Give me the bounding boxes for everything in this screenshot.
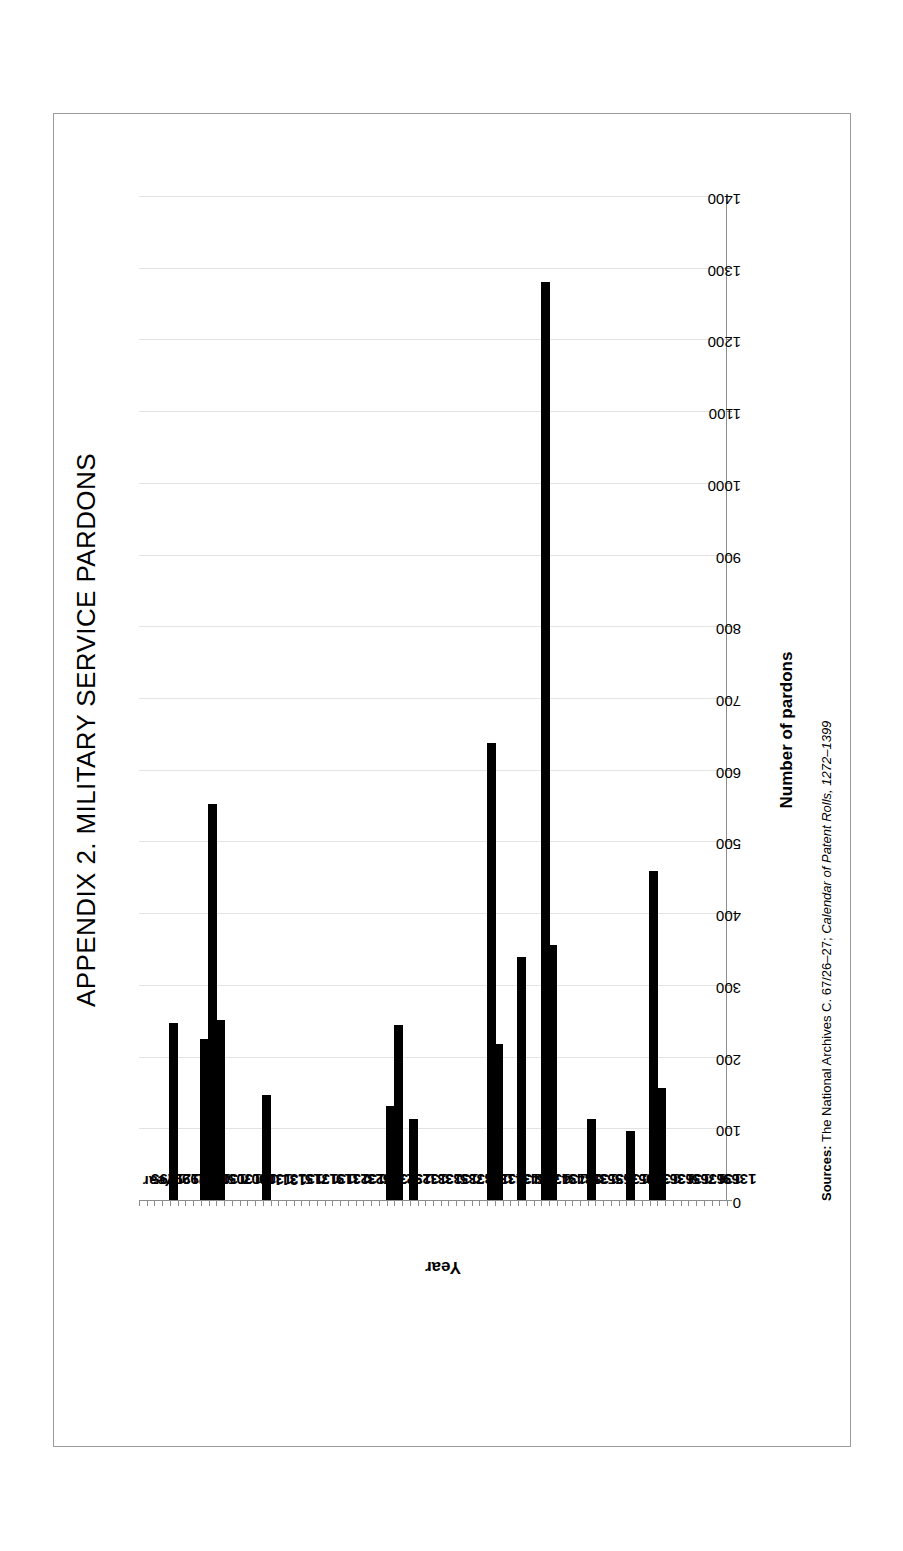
- category-tick: [479, 1201, 480, 1206]
- category-tick: [703, 1201, 704, 1206]
- category-tick: [564, 1201, 565, 1206]
- category-tick: [610, 1201, 611, 1206]
- value-tick-label: 900: [715, 549, 740, 566]
- gridline: [139, 769, 727, 770]
- category-tick: [711, 1201, 712, 1206]
- category-tick: [208, 1201, 209, 1206]
- category-tick: [224, 1201, 225, 1206]
- category-tick: [386, 1201, 387, 1206]
- value-tick-label: 600: [715, 764, 740, 781]
- value-tick-label: 1000: [707, 477, 740, 494]
- category-tick: [394, 1201, 395, 1206]
- category-tick: [200, 1201, 201, 1206]
- value-tick-label: 800: [715, 621, 740, 638]
- category-tick-label: 1369: [723, 1171, 756, 1188]
- chart-title: APPENDIX 2. MILITARY SERVICE PARDONS: [71, 63, 102, 1397]
- value-tick-label: 1300: [707, 262, 740, 279]
- gridline: [139, 626, 727, 627]
- category-tick: [347, 1201, 348, 1206]
- category-tick: [332, 1201, 333, 1206]
- category-tick: [293, 1201, 294, 1206]
- source-label: Sources:: [819, 1145, 834, 1201]
- gridline: [139, 196, 727, 197]
- category-tick: [494, 1201, 495, 1206]
- source-range: 1272–1399: [819, 720, 834, 789]
- value-tick-label: 400: [715, 908, 740, 925]
- gridline: [139, 913, 727, 914]
- category-tick: [177, 1201, 178, 1206]
- category-tick: [541, 1201, 542, 1206]
- category-tick: [262, 1201, 263, 1206]
- rotated-figure-wrapper: APPENDIX 2. MILITARY SERVICE PARDONS 010…: [0, 0, 903, 1551]
- category-tick: [525, 1201, 526, 1206]
- category-tick: [146, 1201, 147, 1206]
- category-tick: [727, 1201, 728, 1206]
- category-tick: [417, 1201, 418, 1206]
- gridline: [139, 841, 727, 842]
- category-tick: [471, 1201, 472, 1206]
- category-tick: [425, 1201, 426, 1206]
- category-tick: [162, 1201, 163, 1206]
- category-tick: [680, 1201, 681, 1206]
- value-tick-label: 0: [732, 1195, 740, 1212]
- plot-area: 0100200300400500600700800900100011001200…: [139, 197, 727, 1201]
- category-tick: [433, 1201, 434, 1206]
- category-tick: [216, 1201, 217, 1206]
- category-tick: [510, 1201, 511, 1206]
- category-tick: [549, 1201, 550, 1206]
- gridline: [139, 267, 727, 268]
- page-canvas: APPENDIX 2. MILITARY SERVICE PARDONS 010…: [0, 0, 903, 1551]
- category-tick: [603, 1201, 604, 1206]
- category-tick: [696, 1201, 697, 1206]
- category-tick: [587, 1201, 588, 1206]
- value-tick-label: 300: [715, 979, 740, 996]
- category-tick: [556, 1201, 557, 1206]
- category-tick: [340, 1201, 341, 1206]
- gridline: [139, 554, 727, 555]
- category-tick: [409, 1201, 410, 1206]
- category-axis-title: Year: [425, 1257, 461, 1277]
- bar: [409, 1119, 418, 1201]
- value-tick-label: 500: [715, 836, 740, 853]
- source-publication: Calendar of Patent Rolls,: [819, 789, 834, 937]
- value-tick-label: 1200: [707, 334, 740, 351]
- source-note: Sources: The National Archives C. 67/26–…: [819, 720, 834, 1200]
- category-tick: [324, 1201, 325, 1206]
- value-axis-title: Number of pardons: [777, 63, 797, 1397]
- category-tick: [185, 1201, 186, 1206]
- category-tick: [154, 1201, 155, 1206]
- category-tick: [247, 1201, 248, 1206]
- gridline: [139, 984, 727, 985]
- category-tick: [278, 1201, 279, 1206]
- gridline: [139, 411, 727, 412]
- gridline: [139, 482, 727, 483]
- category-tick: [355, 1201, 356, 1206]
- category-tick: [309, 1201, 310, 1206]
- category-tick: [649, 1201, 650, 1206]
- chart-stage: APPENDIX 2. MILITARY SERVICE PARDONS 010…: [53, 63, 851, 1397]
- category-tick: [626, 1201, 627, 1206]
- category-tick: [255, 1201, 256, 1206]
- category-tick: [595, 1201, 596, 1206]
- category-tick: [688, 1201, 689, 1206]
- category-tick: [518, 1201, 519, 1206]
- value-tick-label: 700: [715, 693, 740, 710]
- bar: [625, 1130, 634, 1200]
- category-tick: [665, 1201, 666, 1206]
- category-tick: [378, 1201, 379, 1206]
- gridline: [139, 339, 727, 340]
- category-tick: [533, 1201, 534, 1206]
- gridline: [139, 1128, 727, 1129]
- category-tick: [193, 1201, 194, 1206]
- category-tick: [169, 1201, 170, 1206]
- category-tick: [402, 1201, 403, 1206]
- category-tick: [657, 1201, 658, 1206]
- category-tick: [634, 1201, 635, 1206]
- category-tick: [448, 1201, 449, 1206]
- category-tick: [719, 1201, 720, 1206]
- source-archive: The National Archives C. 67/26–27;: [819, 937, 834, 1145]
- category-tick: [618, 1201, 619, 1206]
- category-tick: [316, 1201, 317, 1206]
- value-tick-label: 100: [715, 1123, 740, 1140]
- category-tick: [456, 1201, 457, 1206]
